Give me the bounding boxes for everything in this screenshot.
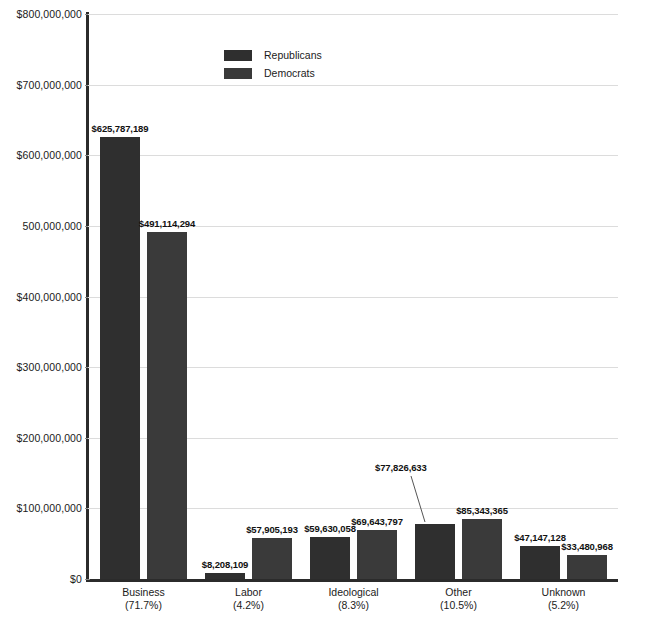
bar-value-label: $77,826,633 xyxy=(375,462,427,473)
legend-label-republicans: Republicans xyxy=(264,49,322,61)
bar-value-label: $8,208,109 xyxy=(202,559,249,570)
bar-value-label: $57,905,193 xyxy=(246,524,298,535)
x-category-name: Labor xyxy=(235,586,262,598)
legend-swatch-democrats xyxy=(224,68,252,79)
bar-value-label: $491,114,294 xyxy=(139,218,195,229)
gridline xyxy=(88,14,618,15)
bar-value-label: $33,480,968 xyxy=(561,541,613,552)
bar-labor-democrats[interactable] xyxy=(252,538,292,579)
bar-value-label: $47,147,128 xyxy=(514,532,566,543)
bar-other-democrats[interactable] xyxy=(462,519,502,579)
x-category-name: Other xyxy=(445,586,471,598)
legend-item-democrats: Democrats xyxy=(224,66,322,80)
bar-value-label: $625,787,189 xyxy=(92,123,149,134)
bar-value-label: $59,630,058 xyxy=(304,523,356,534)
x-category-percent: (71.7%) xyxy=(122,599,165,612)
bar-unknown-democrats[interactable] xyxy=(567,555,607,579)
x-category-percent: (4.2%) xyxy=(233,599,264,612)
y-tick-label: $300,000,000 xyxy=(17,361,82,373)
y-tick-mark xyxy=(85,579,90,580)
leader-line-other-republicans xyxy=(411,476,429,526)
y-tick-label: 500,000,000 xyxy=(23,220,83,232)
x-category-name: Unknown xyxy=(542,586,586,598)
bar-business-republicans[interactable] xyxy=(100,137,140,579)
plot-area: $625,787,189$491,114,294$8,208,109$57,90… xyxy=(88,14,618,579)
x-category-label-unknown: Unknown(5.2%) xyxy=(542,586,586,612)
bar-chart: $800,000,000$700,000,000$600,000,000500,… xyxy=(0,0,654,630)
x-category-percent: (8.3%) xyxy=(328,599,378,612)
y-tick-label: $200,000,000 xyxy=(17,432,82,444)
y-tick-label: $400,000,000 xyxy=(17,291,82,303)
bar-labor-republicans[interactable] xyxy=(205,573,245,579)
legend-item-republicans: Republicans xyxy=(224,48,322,62)
gridline xyxy=(88,85,618,86)
chart-legend: Republicans Democrats xyxy=(224,48,322,84)
x-category-percent: (10.5%) xyxy=(440,599,477,612)
x-category-percent: (5.2%) xyxy=(542,599,586,612)
y-tick-label: $100,000,000 xyxy=(17,502,82,514)
x-category-name: Business xyxy=(122,586,165,598)
bar-other-republicans[interactable] xyxy=(415,524,455,579)
y-tick-label: $800,000,000 xyxy=(17,8,82,20)
bar-value-label: $85,343,365 xyxy=(456,505,508,516)
gridline xyxy=(88,155,618,156)
bar-ideological-republicans[interactable] xyxy=(310,537,350,579)
legend-swatch-republicans xyxy=(224,50,252,61)
bar-unknown-republicans[interactable] xyxy=(520,546,560,579)
x-axis-line xyxy=(86,579,618,582)
legend-label-democrats: Democrats xyxy=(264,67,315,79)
x-category-name: Ideological xyxy=(328,586,378,598)
y-tick-label: $700,000,000 xyxy=(17,79,82,91)
y-tick-label: $0 xyxy=(70,573,82,585)
x-category-label-ideological: Ideological(8.3%) xyxy=(328,586,378,612)
bar-ideological-democrats[interactable] xyxy=(357,530,397,579)
bar-value-label: $69,643,797 xyxy=(351,516,403,527)
x-category-label-business: Business(71.7%) xyxy=(122,586,165,612)
x-category-label-labor: Labor(4.2%) xyxy=(233,586,264,612)
y-tick-label: $600,000,000 xyxy=(17,149,82,161)
bar-business-democrats[interactable] xyxy=(147,232,187,579)
x-category-label-other: Other(10.5%) xyxy=(440,586,477,612)
